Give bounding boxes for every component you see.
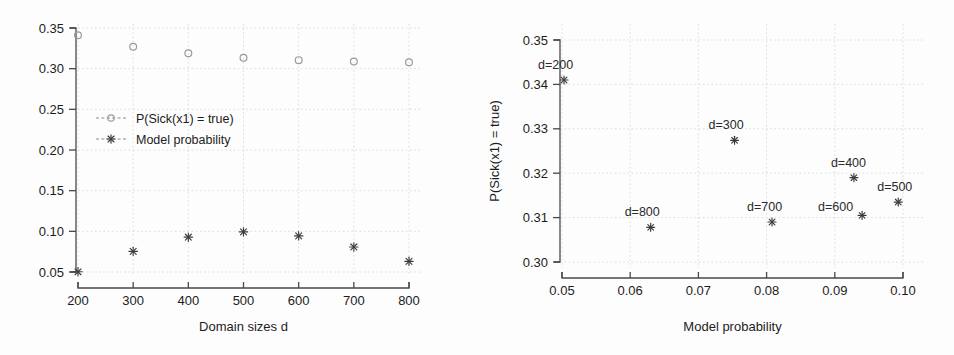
data-point-label: d=200 (538, 58, 573, 72)
y-axis-line (554, 40, 560, 262)
data-point-label: d=500 (877, 180, 912, 194)
x-axis-tick-label: 300 (122, 293, 144, 308)
x-axis-tick-label: 0.08 (754, 283, 779, 298)
data-point-star (731, 136, 739, 144)
y-axis-tick-label: 0.32 (523, 166, 548, 181)
data-point-star (184, 233, 192, 241)
grid-lines (74, 24, 421, 276)
legend-label-2: Model probability (136, 133, 231, 147)
x-axis-tick-label: 400 (177, 293, 199, 308)
data-point-star (74, 268, 82, 276)
legend-marker-star (107, 135, 115, 143)
x-axis-tick-label: 0.07 (686, 283, 711, 298)
x-axis-tick-label: 0.09 (822, 283, 847, 298)
data-point-star (850, 174, 858, 182)
data-point-star (768, 218, 776, 226)
data-point-star (647, 223, 655, 231)
data-point-star (560, 76, 568, 84)
y-axis-tick-label: 0.10 (39, 224, 64, 239)
legend: P(Sick(x1) = true)Model probability (96, 112, 234, 147)
y-axis-tick-label: 0.33 (523, 121, 548, 136)
right-plot-svg: 0.300.310.320.330.340.35P(Sick(x1) = tru… (477, 0, 954, 355)
figure-container: 0.050.100.150.200.250.300.35200300400500… (0, 0, 954, 355)
data-point-label: d=400 (831, 156, 866, 170)
data-point-label: d=700 (747, 200, 782, 214)
grid-lines (556, 24, 923, 268)
legend-label-1: P(Sick(x1) = true) (136, 112, 234, 126)
data-point-star (894, 198, 902, 206)
y-axis-tick-label: 0.05 (39, 265, 64, 280)
left-plot-svg: 0.050.100.150.200.250.300.35200300400500… (0, 0, 477, 355)
y-axis-tick-label: 0.20 (39, 143, 64, 158)
x-axis-tick-label: 600 (288, 293, 310, 308)
data-point-circle (130, 43, 137, 50)
data-point-circle (185, 50, 192, 57)
x-axis-tick-label: 0.10 (890, 283, 915, 298)
x-axis-tick-label: 800 (398, 293, 420, 308)
data-point-star (294, 232, 302, 240)
y-axis-title: P(Sick(x1) = true) (487, 100, 502, 202)
y-axis-tick-label: 0.34 (523, 77, 548, 92)
y-axis-tick-label: 0.30 (523, 255, 548, 270)
y-axis-tick-label: 0.31 (523, 210, 548, 225)
y-axis-tick-label: 0.25 (39, 102, 64, 117)
data-point-star (858, 211, 866, 219)
data-point-label: d=800 (625, 205, 660, 219)
y-axis-tick-label: 0.15 (39, 183, 64, 198)
x-axis-title: Model probability (683, 319, 782, 334)
chart-panel-left: 0.050.100.150.200.250.300.35200300400500… (0, 0, 477, 355)
x-axis-line (562, 272, 903, 278)
data-point-star (350, 243, 358, 251)
y-axis-tick-label: 0.35 (523, 33, 548, 48)
x-axis-tick-label: 200 (67, 293, 89, 308)
x-axis-tick-label: 0.05 (549, 283, 574, 298)
x-axis-tick-label: 0.06 (618, 283, 643, 298)
chart-panel-right: 0.300.310.320.330.340.35P(Sick(x1) = tru… (477, 0, 954, 355)
data-point-star (239, 228, 247, 236)
y-axis-tick-label: 0.35 (39, 21, 64, 36)
x-axis-title: Domain sizes d (199, 319, 288, 334)
x-axis-tick-label: 700 (343, 293, 365, 308)
y-axis-tick-label: 0.30 (39, 61, 64, 76)
data-point-label: d=300 (709, 118, 744, 132)
data-point-star (405, 257, 413, 265)
x-axis-tick-label: 500 (233, 293, 255, 308)
data-point-star (129, 247, 137, 255)
data-point-label: d=600 (818, 200, 853, 214)
